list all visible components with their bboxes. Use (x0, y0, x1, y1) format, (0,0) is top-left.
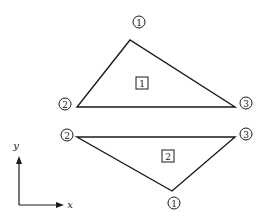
x-axis-label: x (67, 199, 73, 210)
element-1-triangle (77, 40, 235, 107)
element-2-node-2-label: 2 (64, 131, 70, 141)
y-axis-label: y (12, 140, 19, 151)
diagram-canvas: 1 1 2 3 2 1 2 3 y x (0, 0, 265, 221)
x-axis-arrow-icon (56, 202, 64, 208)
y-axis-arrow-icon (16, 156, 22, 164)
element-2-triangle (77, 137, 235, 191)
element-2-node-1-label: 1 (171, 199, 177, 209)
element-1-node-3-label: 3 (243, 99, 249, 109)
element-1: 1 1 2 3 (59, 16, 252, 110)
element-2-node-3-label: 3 (243, 130, 249, 140)
element-2: 2 1 2 3 (61, 128, 252, 209)
element-2-label: 2 (165, 152, 171, 162)
element-1-label: 1 (139, 79, 145, 89)
element-1-node-2-label: 2 (62, 100, 68, 110)
element-1-node-1-label: 1 (136, 18, 142, 28)
coordinate-axes: y x (12, 140, 73, 210)
